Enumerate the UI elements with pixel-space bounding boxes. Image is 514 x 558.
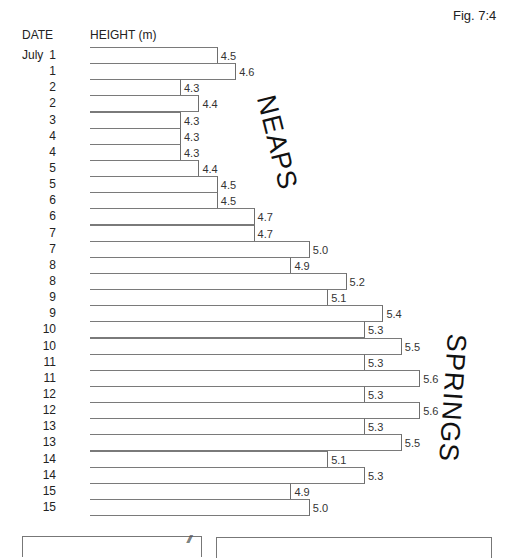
table-row: 105.3	[0, 321, 514, 337]
height-bar	[90, 451, 328, 468]
date-label: 2	[49, 80, 56, 94]
date-label: 3	[49, 113, 56, 127]
table-row: 154.9	[0, 483, 514, 499]
day-label: 12	[43, 403, 56, 417]
value-label: 5.5	[405, 341, 420, 353]
height-bar	[90, 257, 291, 274]
date-label: 11	[44, 355, 56, 369]
date-label: 7	[49, 226, 56, 240]
table-row: 95.4	[0, 305, 514, 321]
date-label: 6	[49, 193, 56, 207]
day-label: 11	[44, 371, 56, 385]
height-bar	[90, 225, 255, 242]
day-label: 5	[49, 177, 56, 191]
table-row: 145.3	[0, 467, 514, 483]
height-bar	[90, 208, 255, 225]
table-row: 155.0	[0, 499, 514, 515]
value-label: 5.3	[368, 421, 383, 433]
value-label: 5.0	[313, 502, 328, 514]
date-label: 9	[49, 306, 56, 320]
value-label: 5.1	[331, 454, 346, 466]
table-row: 54.4	[0, 160, 514, 176]
day-label: 2	[49, 96, 56, 110]
value-label: 4.5	[221, 179, 236, 191]
height-bar	[90, 467, 365, 484]
date-label: 4	[49, 129, 56, 143]
value-label: 5.3	[368, 389, 383, 401]
value-label: 4.5	[221, 50, 236, 62]
height-bar	[90, 160, 199, 177]
day-label: 3	[49, 113, 56, 127]
value-label: 5.5	[405, 437, 420, 449]
height-bar	[90, 434, 402, 451]
value-label: 5.3	[368, 357, 383, 369]
height-bar	[90, 144, 181, 161]
height-bar	[90, 499, 310, 516]
hatch-marks: ///	[187, 533, 190, 545]
table-row: 84.9	[0, 257, 514, 273]
height-bar	[90, 338, 402, 355]
table-row: 64.7	[0, 208, 514, 224]
height-bar	[90, 95, 199, 112]
date-label: 8	[49, 274, 56, 288]
value-label: 5.6	[423, 373, 438, 385]
height-column-header: HEIGHT (m)	[90, 28, 156, 42]
height-bar	[90, 321, 365, 338]
date-label: 9	[49, 290, 56, 304]
value-label: 4.3	[184, 147, 199, 159]
figure-label: Fig. 7:4	[453, 8, 496, 23]
day-label: 9	[49, 290, 56, 304]
day-label: 5	[49, 161, 56, 175]
date-label: 2	[49, 96, 56, 110]
date-label: 5	[49, 161, 56, 175]
day-label: 13	[43, 419, 56, 433]
height-bar	[90, 402, 420, 419]
height-bar	[90, 305, 383, 322]
height-bar	[90, 273, 347, 290]
height-bar	[90, 354, 365, 371]
day-label: 6	[49, 209, 56, 223]
value-label: 4.7	[258, 228, 273, 240]
value-label: 5.3	[368, 470, 383, 482]
day-label: 13	[43, 435, 56, 449]
date-label: 10	[43, 322, 56, 336]
height-bar	[90, 386, 365, 403]
table-row: 74.7	[0, 225, 514, 241]
value-label: 4.9	[294, 486, 309, 498]
day-label: 15	[43, 484, 56, 498]
day-label: 1	[49, 48, 56, 62]
day-label: 12	[43, 387, 56, 401]
value-label: 5.4	[386, 308, 401, 320]
date-label: 1	[49, 64, 56, 78]
day-label: 15	[43, 500, 56, 514]
day-label: 14	[43, 452, 56, 466]
date-label: 8	[49, 258, 56, 272]
table-row: 54.5	[0, 176, 514, 192]
height-bar	[90, 483, 291, 500]
height-bar	[90, 370, 420, 387]
day-label: 4	[49, 145, 56, 159]
height-bar	[90, 63, 236, 80]
day-label: 2	[49, 80, 56, 94]
date-label: 10	[43, 339, 56, 353]
date-label: 7	[49, 242, 56, 256]
value-label: 4.3	[184, 82, 199, 94]
date-label: 15	[43, 484, 56, 498]
day-label: 11	[44, 355, 56, 369]
table-row: 115.3	[0, 354, 514, 370]
date-label: 13	[43, 435, 56, 449]
day-label: 4	[49, 129, 56, 143]
value-label: 5.1	[331, 292, 346, 304]
date-label: 5	[49, 177, 56, 191]
date-column-header: DATE	[22, 28, 53, 42]
day-label: 8	[49, 258, 56, 272]
day-label: 14	[43, 468, 56, 482]
date-label: 6	[49, 209, 56, 223]
day-label: 1	[49, 64, 56, 78]
table-row: 105.5	[0, 338, 514, 354]
day-label: 6	[49, 193, 56, 207]
day-label: 7	[49, 226, 56, 240]
table-row: 75.0	[0, 241, 514, 257]
value-label: 4.6	[239, 66, 254, 78]
day-label: 7	[49, 242, 56, 256]
